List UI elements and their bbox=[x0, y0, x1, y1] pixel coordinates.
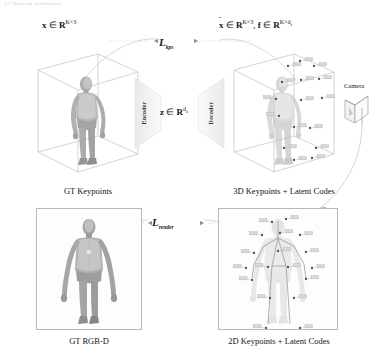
latent-element-of: ∈ bbox=[166, 107, 174, 117]
formula-element-of: ∈ bbox=[49, 20, 57, 30]
keypoint-dot bbox=[299, 327, 301, 329]
keypoint-dot bbox=[281, 81, 283, 83]
keypoint-leader-line bbox=[302, 327, 305, 328]
keypoint-leader-line bbox=[303, 99, 306, 100]
formula-exponent: K×3 bbox=[66, 19, 77, 25]
keypoint-dot bbox=[313, 65, 315, 67]
keypoint-leader-line bbox=[247, 279, 250, 280]
keypoint-dot bbox=[245, 267, 247, 269]
keypoint-dot bbox=[300, 99, 302, 101]
keypoint-dot bbox=[261, 234, 263, 236]
formula-element-of-2: ∈ bbox=[226, 20, 234, 30]
encoder-block bbox=[133, 78, 163, 148]
keypoint-leader-line bbox=[314, 267, 317, 268]
keypoint-leader-line bbox=[249, 252, 252, 253]
keypoint-leader-line bbox=[302, 60, 305, 61]
keypoint-leader-line bbox=[321, 78, 324, 79]
formula-var-x: x bbox=[42, 20, 47, 30]
keypoint-leader-line bbox=[308, 278, 311, 279]
keypoint-dot bbox=[321, 97, 323, 99]
latent-exponent: dz bbox=[183, 106, 188, 112]
kp2d-person-and-skeleton bbox=[218, 208, 338, 330]
camera-projection-arrow bbox=[300, 120, 370, 216]
latent-code-tag bbox=[260, 219, 268, 222]
caption-2d-keypoints-latent: 2D Keypoints + Latent Codes bbox=[214, 336, 344, 346]
latent-code-tag bbox=[319, 63, 327, 66]
camera-label: Camera bbox=[344, 82, 364, 89]
latent-code-tag bbox=[293, 264, 301, 267]
latent-code-tag bbox=[311, 249, 319, 252]
decoder-label: Decoder bbox=[208, 93, 214, 133]
keypoint-dot bbox=[283, 147, 285, 149]
latent-code-tag bbox=[285, 230, 293, 233]
keypoint-leader-line bbox=[296, 297, 299, 298]
latent-code-tag bbox=[311, 276, 319, 279]
latent-code-tag bbox=[306, 97, 314, 100]
keypoint-leader-line bbox=[241, 267, 244, 268]
latent-code-tag bbox=[264, 96, 272, 99]
keypoint-dot bbox=[279, 232, 281, 234]
predicted-person-3d bbox=[267, 76, 301, 165]
keypoint-dot bbox=[285, 218, 287, 220]
latent-code-tag bbox=[305, 58, 313, 61]
latent-code-tag bbox=[250, 232, 258, 235]
keypoint-dot bbox=[275, 98, 277, 100]
latent-code-tag bbox=[327, 95, 335, 98]
formula-var-f: f bbox=[258, 20, 261, 30]
gt-keypoints-3d-box bbox=[26, 44, 150, 180]
keypoint-dot bbox=[305, 251, 307, 253]
latent-code-tag bbox=[305, 325, 313, 328]
keypoint-leader-line bbox=[257, 234, 260, 235]
keypoint-leader-line bbox=[324, 97, 327, 98]
formula-var-xhat: ̂x bbox=[219, 20, 226, 30]
latent-code-tag bbox=[240, 277, 248, 280]
formula-comma: , bbox=[253, 20, 255, 30]
keypoint-dot bbox=[287, 65, 289, 67]
keypoint-leader-line bbox=[303, 79, 306, 80]
architecture-figure: 3.2 Network Architecture x ∈ RK×3 ̂x ∈ R… bbox=[0, 0, 382, 363]
gt-person-3d bbox=[71, 76, 105, 165]
keypoint-dot bbox=[277, 250, 279, 252]
latent-code-tag bbox=[317, 265, 325, 268]
formula-exponent-3: K×df bbox=[280, 19, 292, 25]
keypoint-dot bbox=[267, 266, 269, 268]
keypoint-leader-line bbox=[290, 65, 293, 66]
keypoint-dot bbox=[305, 278, 307, 280]
latent-code-tag bbox=[256, 264, 264, 267]
keypoint-dot bbox=[300, 79, 302, 81]
keypoint-dot bbox=[311, 267, 313, 269]
keypoint-dot bbox=[293, 159, 295, 161]
formula-element-of-3: ∈ bbox=[263, 20, 271, 30]
input-keypoints-formula: x ∈ RK×3 bbox=[42, 19, 76, 30]
latent-code-tag bbox=[293, 63, 301, 66]
latent-code-tag bbox=[258, 295, 266, 298]
keypoint-dot bbox=[299, 234, 301, 236]
keypoint-leader-line bbox=[308, 251, 311, 252]
keypoint-dot bbox=[253, 252, 255, 254]
keypoint-leader-line bbox=[265, 297, 268, 298]
formula-exponent-2: K×3 bbox=[243, 19, 254, 25]
latent-code-tag bbox=[254, 325, 262, 328]
keypoint-leader-line bbox=[296, 159, 299, 160]
latent-var-z: z bbox=[160, 107, 164, 117]
latent-code-tag bbox=[299, 295, 307, 298]
keypoint-dot bbox=[318, 78, 320, 80]
latent-code-tag bbox=[289, 145, 297, 148]
keypoint-dot bbox=[293, 297, 295, 299]
gt-rgbd-person bbox=[36, 208, 142, 330]
latent-code-tag bbox=[267, 113, 275, 116]
keypoint-dot bbox=[265, 327, 267, 329]
latent-code-tag bbox=[283, 248, 291, 251]
keypoint-leader-line bbox=[302, 234, 305, 235]
keypoint-dot bbox=[299, 60, 301, 62]
keypoint-dot bbox=[271, 221, 273, 223]
caption-gt-rgbd: GT RGB-D bbox=[36, 336, 142, 346]
keypoint-leader-line bbox=[288, 218, 291, 219]
latent-code-tag bbox=[324, 76, 332, 79]
keypoint-dot bbox=[293, 126, 295, 128]
latent-code-formula: z ∈ Rdz bbox=[160, 106, 188, 117]
keypoint-dot bbox=[269, 297, 271, 299]
latent-code-tag bbox=[234, 265, 242, 268]
latent-code-tag bbox=[287, 79, 295, 82]
latent-code-tag bbox=[291, 216, 299, 219]
